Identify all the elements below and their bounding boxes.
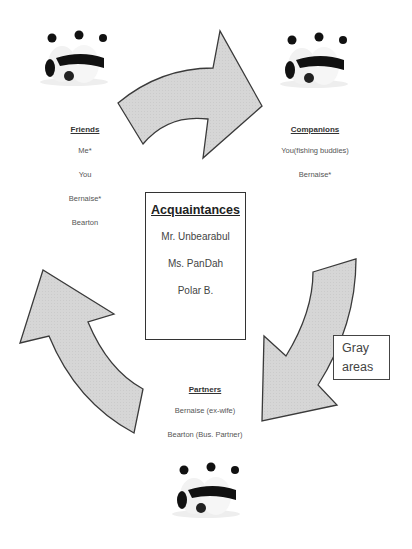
companions-group: Companions You(fishing buddies) Bernaise…: [265, 125, 365, 194]
companions-item: Bernaise*: [265, 170, 365, 179]
friends-item: You: [40, 170, 130, 179]
friends-title: Friends: [40, 125, 130, 134]
arrow-top-right: [118, 31, 262, 158]
partners-item: Bearton (Bus. Partner): [150, 430, 260, 439]
friends-item: Bearton: [40, 218, 130, 227]
acquaintances-item: Ms. PanDah: [146, 258, 245, 269]
friends-group: Friends Me* You Bernaise* Bearton: [40, 125, 130, 242]
acquaintances-box: Acquaintances Mr. Unbearabul Ms. PanDah …: [145, 192, 246, 340]
acquaintances-item: Polar B.: [146, 285, 245, 296]
friends-item: Me*: [40, 146, 130, 155]
friends-item: Bernaise*: [40, 194, 130, 203]
acquaintances-title: Acquaintances: [146, 203, 245, 217]
panda-hug-image: [36, 28, 112, 86]
partners-title: Partners: [150, 385, 260, 394]
gray-areas-callout: Gray areas: [333, 335, 390, 380]
callout-line-2: areas: [342, 360, 373, 374]
arrow-left-up: [20, 270, 143, 433]
companions-item: You(fishing buddies): [265, 146, 365, 155]
acquaintances-item: Mr. Unbearabul: [146, 231, 245, 242]
callout-line-1: Gray: [342, 341, 369, 355]
panda-hug-image: [276, 30, 352, 88]
partners-item: Bernaise (ex-wife): [150, 406, 260, 415]
partners-group: Partners Bernaise (ex-wife) Bearton (Bus…: [150, 385, 260, 454]
panda-hug-image: [168, 460, 244, 518]
companions-title: Companions: [265, 125, 365, 134]
